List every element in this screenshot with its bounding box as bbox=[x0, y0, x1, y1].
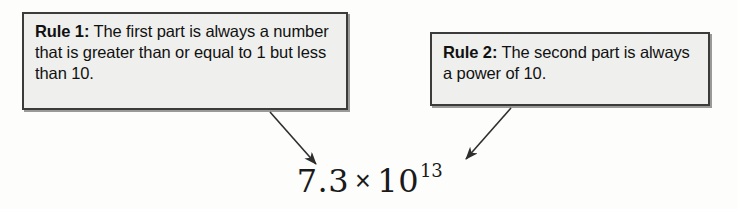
callout-label-rule-2: Rule 2: bbox=[443, 43, 497, 61]
arrow-rule-2-to-power bbox=[466, 108, 511, 159]
callout-label-rule-1: Rule 1: bbox=[35, 22, 89, 40]
scientific-notation-figure: Rule 1: The first part is always a numbe… bbox=[0, 0, 738, 209]
formula-multiplication-operator: × bbox=[349, 166, 377, 196]
callout-box-rule-2: Rule 2: The second part is always a powe… bbox=[430, 32, 710, 106]
callout-box-rule-1: Rule 1: The first part is always a numbe… bbox=[22, 12, 348, 110]
formula-base: 10 bbox=[377, 162, 419, 200]
arrow-rule-1-to-mantissa bbox=[270, 112, 316, 164]
formula-scientific-notation: 7.3×1013 bbox=[0, 162, 738, 200]
formula-mantissa: 7.3 bbox=[297, 162, 349, 200]
formula-exponent: 13 bbox=[420, 160, 442, 181]
